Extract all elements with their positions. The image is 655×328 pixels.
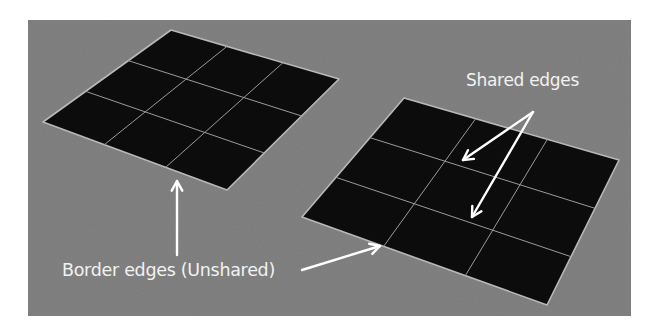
border-edges-label: Border edges (Unshared) [62,260,275,280]
shared-edges-label: Shared edges [466,70,579,90]
